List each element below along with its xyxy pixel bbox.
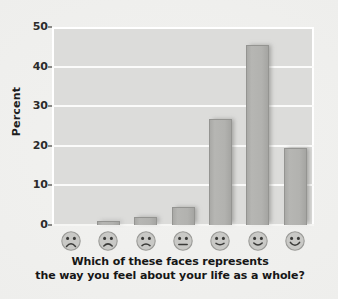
bar [209,119,232,225]
y-axis-tick-label: 40 [26,62,48,72]
bar-series [52,27,314,225]
bar-slot [172,27,195,225]
bar [134,217,157,225]
sad-face-icon [97,230,119,252]
very-happy-face-icon [284,230,306,252]
bar [284,148,307,225]
bar-slot [284,27,307,225]
y-axis-tick-label: 50 [26,22,48,32]
caption-line-1: Which of these faces represents [20,255,320,269]
caption-line-2: the way you feel about your life as a wh… [20,269,320,283]
slightly-happy-face-icon [209,230,231,252]
bar-slot [59,27,82,225]
neutral-face-icon [172,230,194,252]
y-axis-tick-label: 0 [26,220,48,230]
sad-face-icon [60,230,82,252]
bar [97,221,120,225]
y-axis-tick-label: 30 [26,101,48,111]
bar-slot [246,27,269,225]
slightly-sad-face-icon [135,230,157,252]
y-axis-tick-label: 20 [26,141,48,151]
happy-face-icon [247,230,269,252]
bar-chart-figure: 01020304050 Percent Which of these faces… [0,0,338,299]
y-axis-label: Percent [10,80,23,144]
y-axis-tick-label: 10 [26,180,48,190]
bar-slot [97,27,120,225]
x-axis-face-icons [52,230,314,252]
bar-slot [209,27,232,225]
x-axis-caption: Which of these faces represents the way … [20,255,320,282]
bar [172,207,195,225]
bar-slot [134,27,157,225]
bar [246,45,269,225]
